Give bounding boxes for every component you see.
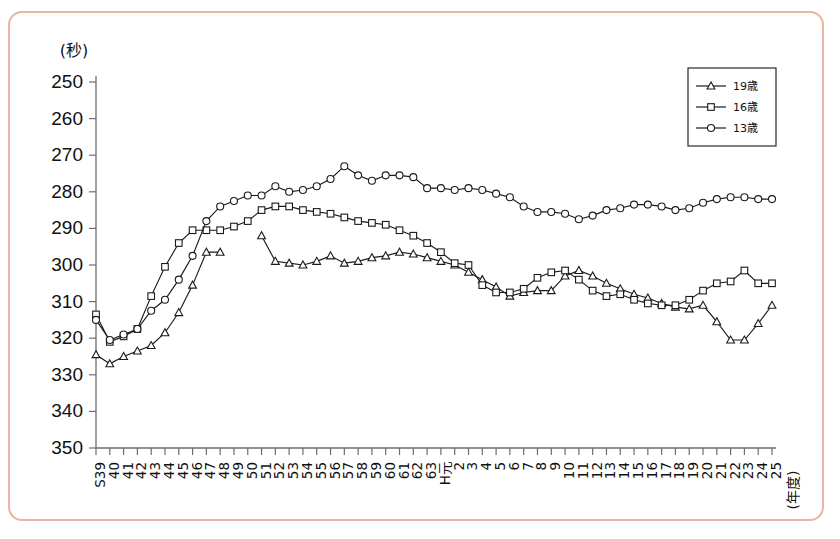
marker-circle — [327, 175, 334, 182]
marker-square — [438, 249, 445, 256]
marker-square — [382, 221, 389, 228]
axis-lines — [96, 76, 776, 448]
marker-circle — [244, 192, 251, 199]
marker-circle — [410, 174, 417, 181]
marker-circle — [686, 205, 693, 212]
marker-square — [327, 210, 334, 217]
marker-circle — [506, 194, 513, 201]
marker-circle — [189, 252, 196, 259]
marker-square — [258, 207, 265, 214]
marker-circle — [368, 177, 375, 184]
marker-circle — [313, 183, 320, 190]
marker-square — [589, 287, 596, 294]
y-tick-label: 250 — [51, 71, 83, 92]
y-tick-label: 260 — [51, 108, 83, 129]
marker-circle — [617, 205, 624, 212]
marker-triangle — [189, 281, 197, 288]
y-unit-label: (秒) — [60, 41, 88, 60]
marker-square — [672, 302, 679, 309]
marker-circle — [769, 196, 776, 203]
series-13歳 — [93, 163, 776, 344]
marker-square — [708, 104, 715, 111]
marker-square — [741, 267, 748, 274]
marker-triangle — [92, 351, 100, 358]
marker-square — [479, 282, 486, 289]
marker-triangle — [161, 329, 169, 336]
legend-label-19歳: 19歳 — [733, 80, 758, 93]
legend-label-13歳: 13歳 — [733, 122, 758, 135]
marker-triangle — [575, 266, 583, 273]
series-line — [96, 166, 772, 340]
marker-circle — [727, 194, 734, 201]
x-axis-label: (年度) — [785, 471, 801, 510]
series-line — [96, 252, 220, 364]
marker-triangle — [327, 252, 335, 259]
y-tick-label: 290 — [51, 217, 83, 238]
marker-square — [576, 276, 583, 283]
marker-square — [645, 300, 652, 307]
marker-square — [300, 207, 307, 214]
marker-circle — [120, 331, 127, 338]
marker-circle — [286, 188, 293, 195]
y-tick-label: 280 — [51, 181, 83, 202]
marker-square — [686, 296, 693, 303]
marker-square — [175, 240, 182, 247]
marker-circle — [548, 208, 555, 215]
marker-square — [548, 269, 555, 276]
marker-circle — [161, 296, 168, 303]
marker-circle — [203, 218, 210, 225]
marker-circle — [534, 208, 541, 215]
marker-circle — [603, 207, 610, 214]
marker-circle — [562, 210, 569, 217]
legend: 19歳16歳13歳 — [688, 68, 776, 146]
marker-circle — [175, 276, 182, 283]
marker-square — [603, 293, 610, 300]
series-line — [262, 236, 772, 340]
marker-circle — [451, 186, 458, 193]
marker-square — [424, 240, 431, 247]
marker-square — [714, 280, 721, 287]
marker-circle — [93, 316, 100, 323]
marker-square — [658, 302, 665, 309]
marker-circle — [230, 197, 237, 204]
marker-square — [369, 220, 376, 227]
y-tick-label: 270 — [51, 144, 83, 165]
marker-square — [341, 214, 348, 221]
marker-triangle — [396, 248, 404, 255]
marker-circle — [396, 172, 403, 179]
marker-square — [769, 280, 776, 287]
marker-square — [272, 203, 279, 210]
marker-circle — [355, 172, 362, 179]
marker-circle — [437, 185, 444, 192]
series-16歳 — [93, 203, 776, 345]
marker-circle — [589, 212, 596, 219]
marker-square — [465, 262, 472, 269]
marker-circle — [465, 185, 472, 192]
marker-triangle — [699, 301, 707, 308]
marker-square — [148, 293, 155, 300]
marker-circle — [106, 337, 113, 344]
marker-square — [451, 260, 458, 267]
marker-square — [396, 227, 403, 234]
marker-circle — [755, 196, 762, 203]
marker-circle — [520, 203, 527, 210]
marker-square — [162, 264, 169, 271]
marker-circle — [258, 192, 265, 199]
marker-square — [244, 218, 251, 225]
marker-circle — [631, 201, 638, 208]
marker-square — [520, 285, 527, 292]
chart-stage: 250260270280290300310320330340350(秒)S394… — [0, 0, 840, 539]
marker-circle — [708, 125, 715, 132]
marker-circle — [148, 307, 155, 314]
marker-triangle — [603, 279, 611, 286]
marker-square — [755, 280, 762, 287]
y-tick-label: 340 — [51, 400, 83, 421]
marker-square — [617, 291, 624, 298]
marker-circle — [658, 203, 665, 210]
marker-circle — [341, 163, 348, 170]
marker-circle — [134, 326, 141, 333]
marker-square — [313, 209, 320, 216]
marker-square — [286, 203, 293, 210]
y-tick-label: 330 — [51, 364, 83, 385]
y-tick-label: 350 — [51, 437, 83, 458]
